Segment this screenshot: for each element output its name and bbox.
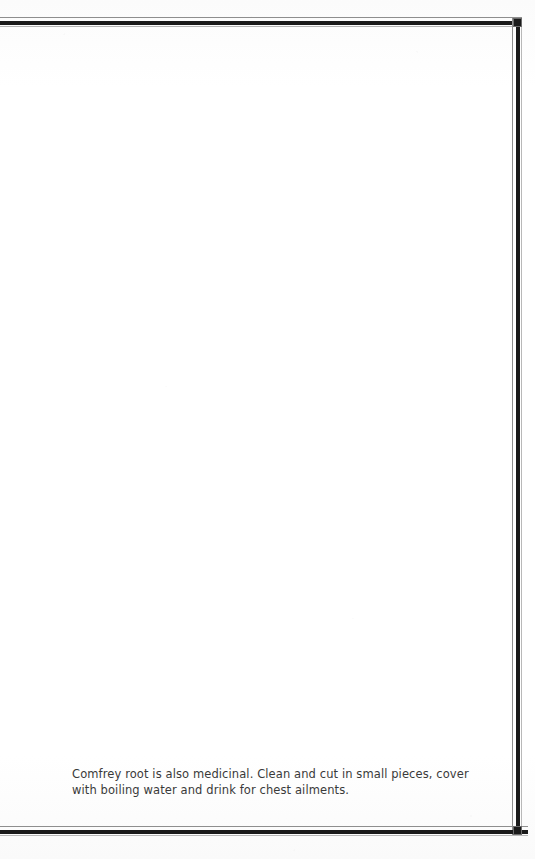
frame-bottom-thin-rule xyxy=(0,826,528,827)
scanned-book-page: Comfrey root is also medicinal. Clean an… xyxy=(0,0,535,859)
frame-top-thin-rule xyxy=(0,17,522,18)
body-paragraph: Comfrey root is also medicinal. Clean an… xyxy=(72,766,476,798)
frame-corner-top-right xyxy=(513,18,522,27)
frame-bottom-hairline xyxy=(0,835,528,836)
frame-right-thick-rule xyxy=(516,21,520,835)
frame-corner-bottom-right xyxy=(513,826,522,835)
frame-top-thick-rule xyxy=(0,21,520,25)
frame-bottom-thick-rule xyxy=(0,830,528,834)
page-content-area: Comfrey root is also medicinal. Clean an… xyxy=(30,30,508,820)
frame-right-hairline xyxy=(521,21,522,835)
frame-right-thin-rule xyxy=(512,17,513,835)
frame-top-hairline xyxy=(0,26,520,27)
body-text-block: Comfrey root is also medicinal. Clean an… xyxy=(72,766,476,798)
